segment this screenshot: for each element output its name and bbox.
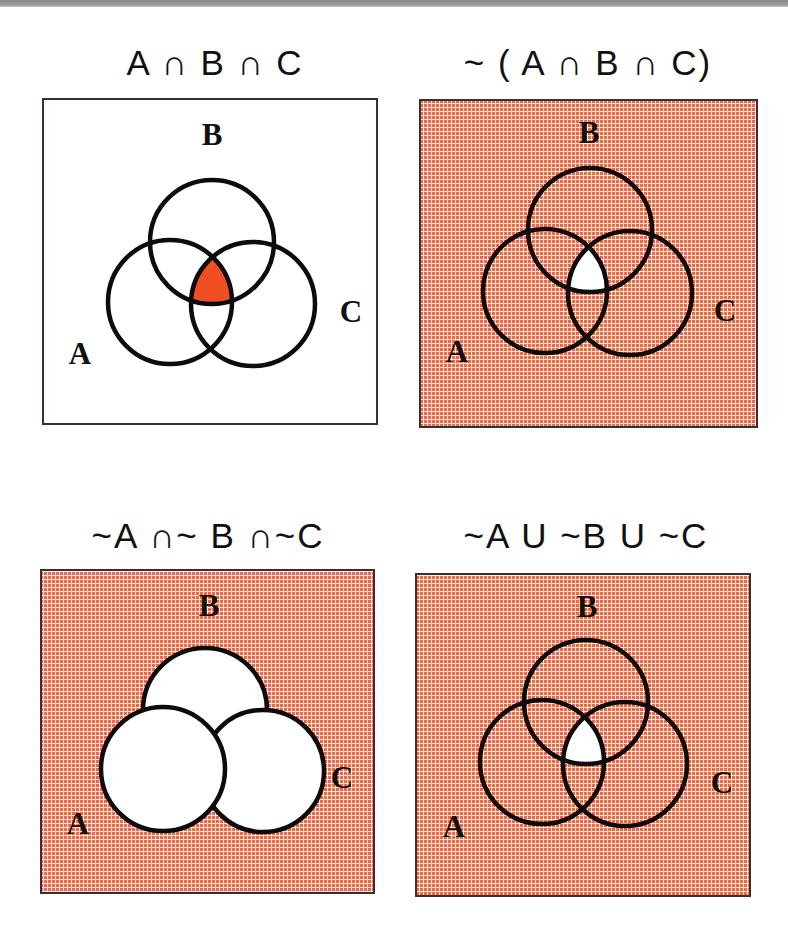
label-b: B xyxy=(199,588,220,623)
label-c: C xyxy=(340,294,362,329)
venn-figure: A ∩ B ∩ C B A C ~ ( A ∩ B ∩ C) B A C ~A … xyxy=(0,0,788,934)
label-b: B xyxy=(577,589,598,624)
panel-title: ~ ( A ∩ B ∩ C) xyxy=(464,43,713,82)
label-c: C xyxy=(331,760,353,795)
label-c: C xyxy=(714,293,736,328)
label-b: B xyxy=(202,117,223,152)
panel-title: A ∩ B ∩ C xyxy=(126,43,303,82)
label-c: C xyxy=(711,765,733,800)
label-a: A xyxy=(446,334,469,369)
label-a: A xyxy=(69,336,92,371)
label-b: B xyxy=(579,115,600,150)
panel-title: ~A U ~B U ~C xyxy=(464,516,709,555)
panel-not-a-and-b-and-c: ~ ( A ∩ B ∩ C) B A C xyxy=(420,43,757,427)
label-a: A xyxy=(67,806,90,841)
label-a: A xyxy=(443,809,466,844)
panel-title: ~A ∩~ B ∩~C xyxy=(92,516,325,555)
panel-not-a-and-not-b-and-not-c: ~A ∩~ B ∩~C B A C xyxy=(41,516,374,893)
panel-not-a-or-not-b-or-not-c: ~A U ~B U ~C B A C xyxy=(416,516,750,896)
circle-a xyxy=(101,707,225,831)
panel-a-and-b-and-c: A ∩ B ∩ C B A C xyxy=(43,43,377,424)
